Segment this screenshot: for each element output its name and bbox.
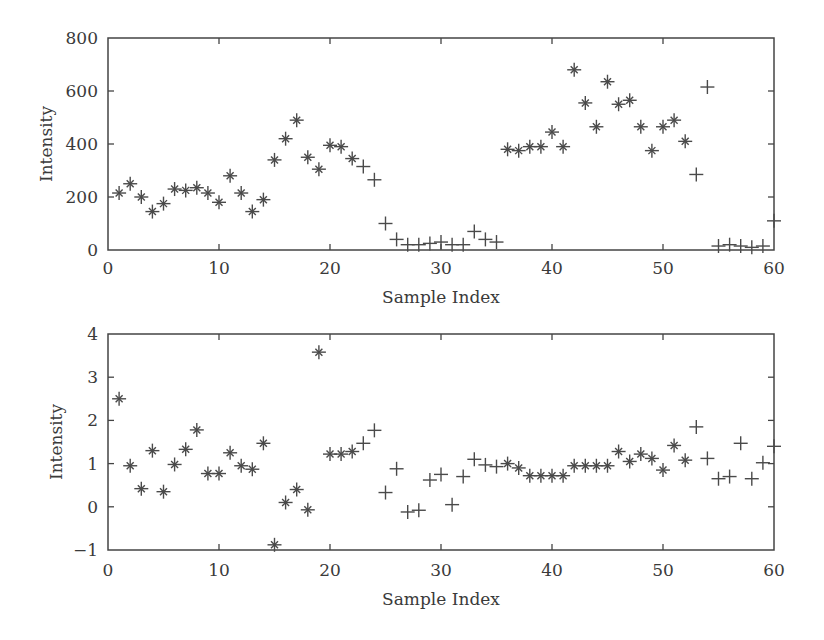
ytick-label: 800	[66, 28, 98, 48]
top-axes-frame	[108, 38, 774, 250]
plus-marker	[756, 456, 770, 470]
xtick-label: 20	[319, 258, 341, 278]
plus-marker	[700, 80, 714, 94]
star-marker	[223, 446, 237, 460]
xtick-label: 40	[541, 258, 563, 278]
bottom-ytick-labels: −1 0 1 2 3 4	[73, 324, 98, 560]
star-marker	[312, 162, 326, 176]
plus-marker	[745, 472, 759, 486]
star-marker	[134, 190, 148, 204]
star-marker	[245, 205, 259, 219]
bottom-data-markers	[112, 345, 781, 552]
star-marker	[256, 193, 270, 207]
star-marker	[234, 459, 248, 473]
star-marker	[123, 459, 137, 473]
ytick-label: 400	[66, 134, 98, 154]
star-marker	[212, 467, 226, 481]
plus-marker	[467, 452, 481, 466]
star-marker	[334, 447, 348, 461]
star-marker	[145, 444, 159, 458]
star-marker	[623, 454, 637, 468]
plus-marker	[734, 239, 748, 253]
xtick-label: 10	[208, 258, 230, 278]
star-marker	[145, 205, 159, 219]
plus-marker	[767, 439, 781, 453]
plus-marker	[478, 232, 492, 246]
ytick-label: 1	[87, 454, 98, 474]
star-marker	[157, 197, 171, 211]
plus-marker	[478, 458, 492, 472]
xtick-label: 30	[430, 258, 452, 278]
star-marker	[567, 63, 581, 77]
star-marker	[656, 120, 670, 134]
star-marker	[312, 345, 326, 359]
xtick-label: 0	[103, 560, 114, 580]
plus-marker	[700, 451, 714, 465]
plus-marker	[401, 505, 415, 519]
star-marker	[212, 195, 226, 209]
top-xtick-labels: 0 10 20 30 40 50 60	[103, 258, 785, 278]
plus-marker	[356, 160, 370, 174]
star-marker	[545, 125, 559, 139]
top-scatter-chart: 0 200 400 600 800 0 10 20 30 40 50 60 Sa…	[0, 0, 824, 320]
star-marker	[623, 93, 637, 107]
star-marker	[301, 503, 315, 517]
plus-marker	[379, 486, 393, 500]
plus-marker	[423, 236, 437, 250]
bottom-xtick-labels: 0 10 20 30 40 50 60	[103, 560, 785, 580]
plus-marker	[434, 235, 448, 249]
ytick-label: 2	[87, 410, 98, 430]
star-marker	[634, 120, 648, 134]
plus-marker	[367, 423, 381, 437]
top-ytick-labels: 0 200 400 600 800	[66, 28, 98, 260]
star-marker	[112, 186, 126, 200]
star-marker	[323, 138, 337, 152]
star-marker	[556, 140, 570, 154]
star-marker	[168, 457, 182, 471]
bottom-y-axis-title: Intensity	[46, 404, 66, 480]
plus-marker	[689, 420, 703, 434]
plus-marker	[490, 235, 504, 249]
star-marker	[678, 134, 692, 148]
ytick-label: 600	[66, 81, 98, 101]
ytick-label: 4	[87, 324, 98, 344]
plus-marker	[356, 436, 370, 450]
star-marker	[556, 469, 570, 483]
star-marker	[334, 140, 348, 154]
plus-marker	[712, 239, 726, 253]
xtick-label: 50	[652, 258, 674, 278]
xtick-label: 20	[319, 560, 341, 580]
plus-marker	[379, 217, 393, 231]
xtick-label: 50	[652, 560, 674, 580]
bottom-scatter-chart: −1 0 1 2 3 4 0 10 20 30 40 50 60 Sample …	[0, 320, 824, 640]
ytick-label: 200	[66, 187, 98, 207]
star-marker	[123, 177, 137, 191]
star-marker	[301, 150, 315, 164]
xtick-label: 40	[541, 560, 563, 580]
plus-marker	[423, 473, 437, 487]
xtick-label: 10	[208, 560, 230, 580]
star-marker	[245, 462, 259, 476]
plus-marker	[445, 498, 459, 512]
star-marker	[112, 392, 126, 406]
star-marker	[256, 436, 270, 450]
top-chart-svg: 0 200 400 600 800 0 10 20 30 40 50 60 Sa…	[0, 0, 824, 320]
top-data-markers	[112, 63, 781, 255]
bottom-x-axis-title: Sample Index	[382, 589, 500, 609]
star-marker	[601, 75, 615, 89]
star-marker	[512, 144, 526, 158]
plus-marker	[745, 240, 759, 254]
star-marker	[279, 495, 293, 509]
star-marker	[601, 459, 615, 473]
top-axis-ticks	[108, 38, 774, 250]
plus-marker	[723, 470, 737, 484]
xtick-label: 0	[103, 258, 114, 278]
star-marker	[667, 113, 681, 127]
star-marker	[190, 423, 204, 437]
ytick-label: −1	[73, 540, 98, 560]
plus-marker	[756, 239, 770, 253]
xtick-label: 60	[763, 560, 785, 580]
plus-marker	[456, 470, 470, 484]
plus-marker	[412, 503, 426, 517]
star-marker	[179, 442, 193, 456]
